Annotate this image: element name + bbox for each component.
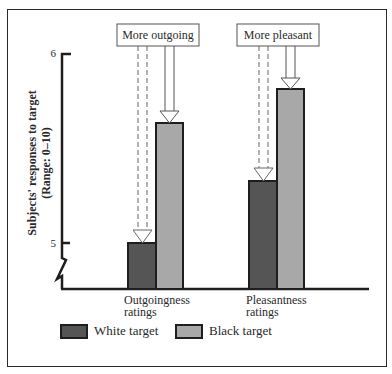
legend-swatch-black: [175, 324, 203, 339]
annotation-text-pleasant: More pleasant: [244, 28, 313, 42]
bar-outgoingness-white: [128, 243, 156, 289]
legend-label-white: White target: [94, 323, 158, 339]
bar-pleasantness-black: [277, 89, 304, 289]
bar-chart: Subjects' responses to target (Range: 0–…: [0, 0, 392, 374]
bar-pleasantness-white: [249, 181, 277, 289]
y-tick-6: 6: [51, 47, 57, 59]
category-label-pleasantness-sub: ratings: [246, 305, 279, 319]
legend-item-white: White target: [60, 323, 158, 339]
category-label-outgoingness-sub: ratings: [124, 305, 157, 319]
solid-arrow-outgoing-black: [160, 46, 179, 123]
legend-swatch-white: [60, 324, 88, 339]
y-axis-title-line2: (Range: 0–10): [39, 127, 53, 199]
y-axis: [57, 54, 71, 289]
legend-label-black: Black target: [209, 323, 272, 339]
bar-outgoingness-black: [156, 123, 183, 289]
dashed-arrow-outgoing-white: [133, 46, 152, 243]
solid-arrow-pleasant-black: [281, 46, 300, 89]
dashed-arrow-pleasant-white: [254, 46, 273, 181]
y-axis-title: Subjects' responses to target (Range: 0–…: [25, 90, 53, 235]
y-axis-title-line1: Subjects' responses to target: [25, 90, 39, 235]
y-tick-5: 5: [51, 237, 57, 249]
annotation-text-outgoing: More outgoing: [122, 28, 194, 42]
legend-item-black: Black target: [175, 323, 272, 339]
